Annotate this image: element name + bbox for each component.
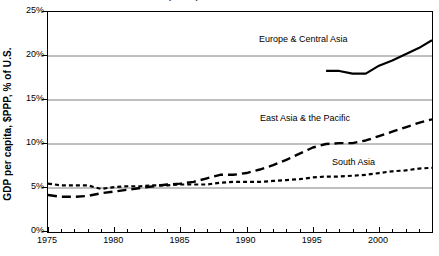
x-axis-tick-label: 1985 bbox=[159, 236, 199, 245]
y-axis-tick-label: 25% bbox=[2, 6, 44, 15]
series-canvas bbox=[48, 12, 432, 232]
series-label-east-asia: East Asia & the Pacific bbox=[260, 113, 350, 123]
y-axis-tick-label: 5% bbox=[2, 182, 44, 191]
gridlines bbox=[48, 56, 432, 188]
plot-area: Europe & Central Asia East Asia & the Pa… bbox=[47, 11, 433, 233]
y-axis-tick-label: 20% bbox=[2, 50, 44, 59]
series-label-europe: Europe & Central Asia bbox=[259, 34, 348, 44]
series-line-south-asia bbox=[48, 168, 432, 189]
y-axis-tick-labels: 0%5%10%15%20%25% bbox=[0, 0, 44, 256]
x-axis-tick-label: 2000 bbox=[358, 236, 398, 245]
y-axis-tick-label: 15% bbox=[2, 94, 44, 103]
series-line-europe-central-asia bbox=[326, 40, 432, 73]
x-axis-tick-label: 1980 bbox=[93, 236, 133, 245]
y-axis-tick-label: 0% bbox=[2, 226, 44, 235]
y-axis-tick-label: 10% bbox=[2, 138, 44, 147]
chart-container: GDP per capita relative to the U.S. GDP … bbox=[0, 0, 439, 256]
series-label-south-asia: South Asia bbox=[332, 157, 375, 167]
x-axis-ticks bbox=[49, 227, 433, 232]
x-axis-tick-label: 1995 bbox=[292, 236, 332, 245]
chart-title: GDP per capita relative to the U.S. bbox=[0, 0, 439, 2]
x-axis-tick-label: 1975 bbox=[27, 236, 67, 245]
data-series bbox=[48, 40, 432, 197]
x-axis-tick-label: 1990 bbox=[226, 236, 266, 245]
